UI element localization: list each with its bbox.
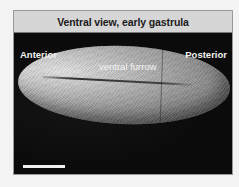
cephalic-crease <box>160 47 164 125</box>
anterior-label: Anterior <box>20 49 57 60</box>
scale-bar <box>23 165 65 168</box>
ventral-furrow-line <box>42 76 192 86</box>
posterior-label: Posterior <box>185 49 227 60</box>
figure-title: Ventral view, early gastrula <box>57 16 189 28</box>
ventral-furrow-label: ventral furrow <box>99 61 157 72</box>
figure-title-bar: Ventral view, early gastrula <box>14 11 232 33</box>
micrograph-figure: Ventral view, early gastrula ventral fur… <box>13 10 233 175</box>
